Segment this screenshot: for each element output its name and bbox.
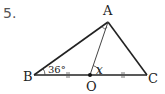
point-o bbox=[88, 73, 92, 77]
vertex-label-a: A bbox=[103, 4, 112, 17]
vertex-label-c: C bbox=[148, 72, 158, 85]
angle-b-label: 36° bbox=[48, 65, 66, 75]
side-ac bbox=[108, 22, 147, 75]
vertex-label-b: B bbox=[23, 70, 33, 83]
vertex-label-o: O bbox=[86, 80, 97, 93]
angle-arc-b bbox=[43, 69, 45, 76]
angle-x-label: x bbox=[96, 64, 103, 76]
